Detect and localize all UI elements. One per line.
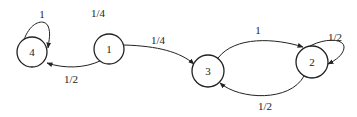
- markov-chain-diagram: 4 1 3 2 1 1/4 1/4 1/2 1 1/2 1/2: [0, 0, 357, 117]
- edge-3-to-2: [218, 41, 303, 58]
- node-4-label: 4: [29, 46, 35, 58]
- node-2-label: 2: [309, 56, 315, 68]
- node-2: 2: [296, 46, 328, 78]
- edge-2-to-3: [220, 76, 304, 96]
- node-4: 4: [17, 37, 47, 67]
- edge-label-2-to-2: 1/2: [328, 31, 342, 43]
- edge-label-3-to-2: 1: [255, 24, 261, 36]
- edge-label-1-to-3: 1/4: [151, 34, 166, 46]
- edge-1-to-4: [47, 61, 100, 67]
- node-1-label: 1: [106, 43, 112, 55]
- edge-label-2-to-3: 1/2: [258, 100, 272, 112]
- edge-label-4-to-4: 1: [39, 8, 45, 20]
- edge-1-to-3: [124, 45, 194, 64]
- node-3-label: 3: [205, 65, 211, 77]
- edge-label-1-to-4: 1/2: [64, 73, 78, 85]
- node-3: 3: [192, 55, 224, 87]
- node-1: 1: [94, 34, 124, 64]
- edge-label-1-self: 1/4: [91, 7, 106, 19]
